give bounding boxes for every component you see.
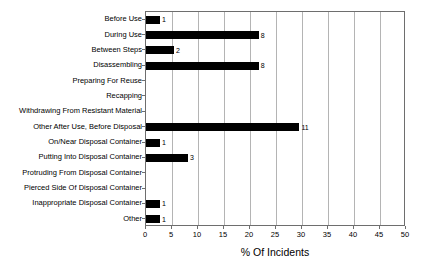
y-axis-label: Withdrawing From Resistant Material [19,106,142,115]
bar-chart-figure: Before UseDuring UseBetween StepsDisasse… [0,0,421,269]
x-axis-tick-mark [379,226,380,229]
bar-row [146,168,404,178]
x-axis-tick-label: 15 [219,230,227,239]
x-axis-tick-label: 5 [169,230,173,239]
x-axis-tick-label: 0 [143,230,147,239]
y-axis-label: Protruding From Disposal Container [22,168,142,177]
x-axis-tick-label: 50 [401,230,409,239]
x-axis-tick-mark [145,226,146,229]
x-axis-ticks: 05101520253035404550 [145,226,405,240]
bar-row: 2 [146,45,404,55]
x-axis-tick-label: 40 [349,230,357,239]
x-axis-tick-mark [301,226,302,229]
bar-row: 1 [146,214,404,224]
x-axis-tick-mark [197,226,198,229]
bar-value-label: 1 [162,16,166,23]
bar [146,123,299,131]
bar-value-label: 1 [162,139,166,146]
x-axis-tick-mark [405,226,406,229]
bar-row: 3 [146,153,404,163]
y-axis-label: Disassembling [93,60,142,69]
bar-row [146,76,404,86]
bar-row [146,91,404,101]
bar [146,200,160,208]
bar-value-label: 8 [261,32,265,39]
bar-row [146,184,404,194]
x-axis-tick-mark [249,226,250,229]
x-axis-tick-mark [275,226,276,229]
bar-value-label: 2 [176,47,180,54]
x-axis-tick-label: 25 [271,230,279,239]
y-axis-label: Before Use [104,14,142,23]
bar [146,139,160,147]
bar-row: 1 [146,199,404,209]
x-axis-tick-label: 30 [297,230,305,239]
y-axis-category-labels: Before UseDuring UseBetween StepsDisasse… [0,11,142,226]
y-axis-label: Other After Use, Before Disposal [33,122,142,131]
y-axis-label: Inappropriate Disposal Container [32,198,142,207]
bar [146,215,160,223]
x-axis-tick-mark [171,226,172,229]
x-axis-tick-mark [223,226,224,229]
plot-area: 1828111311 [145,11,405,226]
bar [146,31,259,39]
bar-value-label: 1 [162,216,166,223]
y-axis-label: During Use [104,30,142,39]
bar-row: 11 [146,122,404,132]
bar [146,154,188,162]
bar-value-label: 1 [162,200,166,207]
x-axis-tick-label: 20 [245,230,253,239]
bar-row: 8 [146,30,404,40]
bar-row: 1 [146,15,404,25]
bar-rows: 1828111311 [146,12,404,225]
y-axis-label: Between Steps [92,45,142,54]
y-axis-label: Pierced Side Of Disposal Container [24,183,142,192]
y-axis-label: Preparing For Reuse [72,76,142,85]
bar-row [146,107,404,117]
bar-row: 1 [146,138,404,148]
bar-row: 8 [146,61,404,71]
y-axis-label: On/Near Disposal Container [48,137,142,146]
bar [146,62,259,70]
x-axis-tick-label: 10 [193,230,201,239]
y-axis-label: Other [123,214,142,223]
y-axis-label: Recapping [106,91,142,100]
bar [146,46,174,54]
bar-value-label: 11 [301,124,308,131]
x-axis-tick-mark [327,226,328,229]
x-axis-tick-mark [353,226,354,229]
bar [146,16,160,24]
x-axis-tick-label: 45 [375,230,383,239]
x-axis-title: % Of Incidents [145,246,405,259]
bar-value-label: 3 [190,154,194,161]
bar-value-label: 8 [261,62,265,69]
x-axis-tick-label: 35 [323,230,331,239]
y-axis-label: Putting Into Disposal Container [39,152,142,161]
